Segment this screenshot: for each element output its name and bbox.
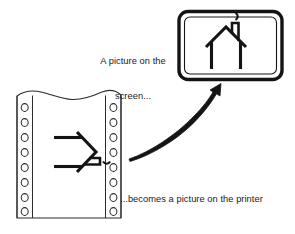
sprocket-hole [21, 134, 28, 142]
monitor-group [179, 12, 282, 80]
caption-screen-line-2: screen... [88, 91, 178, 103]
figure-canvas: A picture on the screen... ...becomes a … [0, 0, 295, 234]
sprocket-hole [110, 179, 117, 187]
sprocket-hole [21, 164, 28, 172]
sprocket-hole [21, 104, 28, 112]
caption-printer: ...becomes a picture on the printer [120, 171, 280, 229]
sprocket-hole [110, 194, 117, 202]
sprocket-hole [21, 194, 28, 202]
caption-printer-line-1: ...becomes a picture on the printer [120, 194, 280, 206]
sprocket-hole [110, 149, 117, 157]
caption-screen: A picture on the screen... [88, 33, 178, 126]
sprocket-hole [110, 208, 117, 216]
caption-screen-line-1: A picture on the [88, 56, 178, 68]
sprocket-hole [21, 179, 28, 187]
sprocket-hole [21, 119, 28, 127]
sprocket-hole [110, 134, 117, 142]
monitor-screen [185, 17, 277, 74]
sprocket-hole [21, 208, 28, 216]
sprocket-hole [110, 164, 117, 172]
sprocket-hole [21, 149, 28, 157]
